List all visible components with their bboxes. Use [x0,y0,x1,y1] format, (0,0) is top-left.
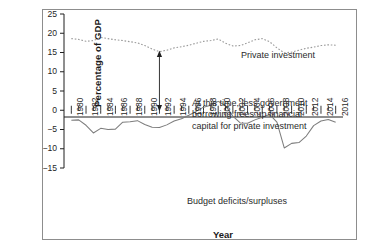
x-tick-label: 1986 [119,98,129,116]
axis-lines [64,14,343,168]
callout-annotation-line: borrowing frees up financial [192,109,364,120]
y-tick-label: −5 [33,124,57,134]
private-investment-label: Private investment [241,50,315,60]
chart-figure: Percentage of GDP Year 2520151050−5−10−1… [0,0,372,251]
x-tick-label: 1990 [149,98,159,116]
y-tick-label: −10 [33,143,57,153]
y-tick-label: −15 [33,163,57,173]
y-tick-label: 0 [33,105,57,115]
callout-annotation-line: At this time, less government [192,98,364,109]
x-tick-label: 1980 [75,98,85,116]
y-tick-label: 5 [33,86,57,96]
figure-border: Percentage of GDP Year 2520151050−5−10−1… [42,9,357,240]
y-tick-label: 20 [33,28,57,38]
x-tick-label: 1982 [90,98,100,116]
y-tick-label: 10 [33,66,57,76]
x-tick-label: 1994 [178,98,188,116]
budget-deficits-label: Budget deficits/surpluses [187,196,287,206]
x-tick-label: 1984 [105,98,115,116]
y-tick-label: 25 [33,9,57,19]
y-tick-label: 15 [33,47,57,57]
x-tick-label: 1988 [134,98,144,116]
x-tick-label: 1992 [163,98,173,116]
callout-annotation-text: At this time, less governmentborrowing f… [192,98,364,132]
y-axis-ticks [60,14,64,168]
callout-annotation-line: capital for private investment [192,121,364,132]
